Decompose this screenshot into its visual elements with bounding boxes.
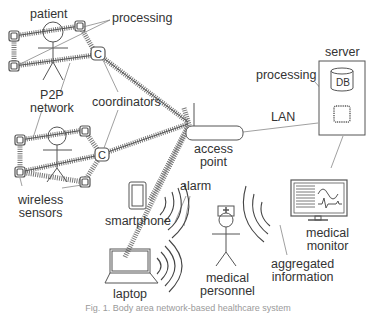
label-medical-personnel: medical personnel [200, 272, 255, 298]
label-aggregated-line2: information [271, 271, 334, 284]
svg-text:DB: DB [336, 77, 350, 88]
svg-text:C: C [94, 48, 102, 60]
processor-chip-icon [334, 106, 350, 122]
label-access-line2: point [194, 156, 233, 169]
label-server: server [325, 46, 360, 59]
smartphone-icon [129, 182, 146, 209]
label-access-point: access point [194, 143, 233, 169]
label-lan: LAN [271, 111, 295, 124]
coordinator-icon: C [95, 148, 109, 161]
label-processing-server: processing [256, 69, 316, 82]
label-personnel-line2: personnel [200, 285, 255, 298]
label-medical-monitor: medical monitor [306, 227, 349, 253]
database-icon: DB [331, 68, 353, 91]
label-p2p-network: P2P network [30, 89, 74, 115]
access-point-icon [186, 103, 243, 140]
medical-monitor-icon [291, 180, 347, 220]
label-monitor-line2: monitor [306, 240, 349, 253]
server-icon: DB [319, 61, 365, 135]
label-alarm: alarm [180, 180, 211, 193]
label-wireless-sensors: wireless sensors [18, 194, 63, 220]
label-processing-top: processing [112, 12, 172, 25]
label-aggregated-information: aggregated information [271, 258, 334, 284]
laptop-icon [105, 249, 158, 283]
medical-personnel-icon [212, 206, 240, 266]
figure-caption: Fig. 1. Body area network-based healthca… [0, 303, 376, 313]
label-smartphone: smartphone [105, 215, 171, 228]
label-laptop: laptop [113, 288, 147, 301]
label-patient: patient [30, 8, 68, 21]
coordinator-icon: C [91, 47, 105, 60]
label-p2p-line2: network [30, 102, 74, 115]
label-coordinators: coordinators [92, 96, 161, 109]
svg-text:C: C [98, 149, 106, 161]
label-wireless-line2: sensors [18, 207, 63, 220]
